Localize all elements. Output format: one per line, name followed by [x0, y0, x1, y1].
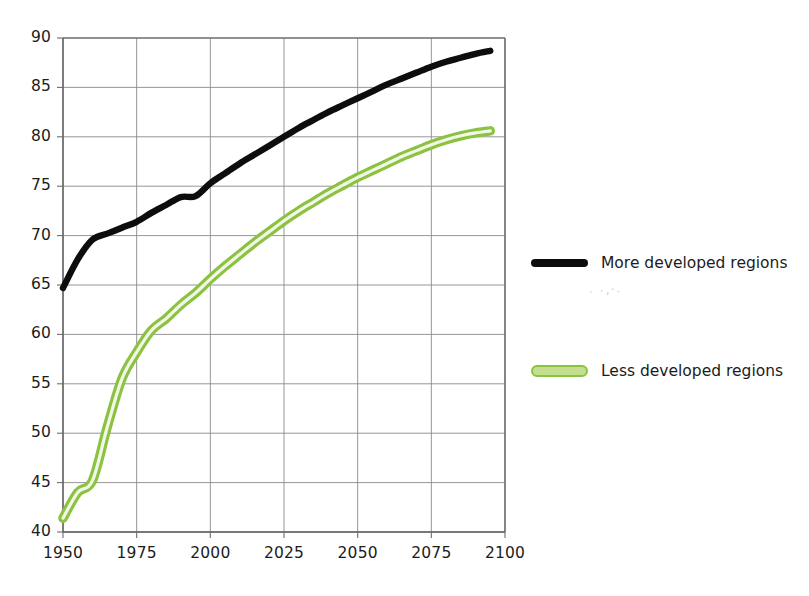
y-tick-label: 65	[11, 275, 51, 293]
x-tick-label: 1975	[102, 544, 172, 562]
legend-label-less-developed-regions: Less developed regions	[601, 362, 783, 380]
y-tick-label: 80	[11, 127, 51, 145]
legend-item-more-developed-regions: More developed regions	[531, 250, 787, 276]
x-tick-label: 2050	[323, 544, 393, 562]
y-tick-label: 60	[11, 324, 51, 342]
x-tick-label: 2100	[470, 544, 540, 562]
life-expectancy-line-chart: 4045505560657075808590 19501975200020252…	[0, 0, 809, 596]
legend-label-more-developed-regions: More developed regions	[601, 254, 787, 272]
series-lines	[63, 51, 490, 518]
y-tick-label: 85	[11, 77, 51, 95]
legend-item-less-developed-regions: Less developed regions	[531, 358, 783, 384]
x-tick-label: 2025	[249, 544, 319, 562]
y-tick-label: 45	[11, 473, 51, 491]
y-tick-label: 40	[11, 522, 51, 540]
x-tick-label: 1950	[28, 544, 98, 562]
chart-legend: More developed regions Less developed re…	[531, 236, 803, 386]
y-tick-label: 70	[11, 226, 51, 244]
y-tick-label: 55	[11, 374, 51, 392]
axis-ticks	[57, 38, 505, 538]
scan-smudge-artifact: · ·,·.	[588, 282, 622, 299]
x-tick-label: 2075	[396, 544, 466, 562]
y-tick-label: 75	[11, 176, 51, 194]
green-line-swatch-icon	[531, 365, 588, 377]
y-tick-label: 90	[11, 28, 51, 46]
black-line-swatch-icon	[531, 259, 588, 267]
x-tick-label: 2000	[175, 544, 245, 562]
grid-lines	[63, 38, 505, 532]
y-tick-label: 50	[11, 423, 51, 441]
